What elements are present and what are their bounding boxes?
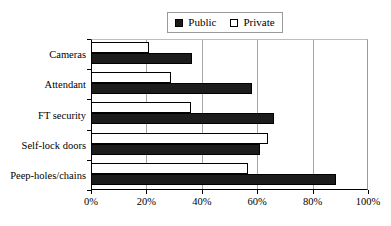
x-axis-label: 20% [137,196,156,207]
bar-group [91,160,368,190]
legend-entry-private: Private [230,17,274,28]
y-axis-tick [87,160,91,161]
y-axis-label: Peep-holes/chains [0,169,86,180]
legend-swatch-private-icon [230,19,238,27]
legend-label-private: Private [243,17,274,28]
y-axis-tick [87,130,91,131]
chart-legend: Public Private [167,12,283,33]
legend-label-public: Public [188,17,216,28]
y-axis-label: Cameras [0,49,86,60]
x-axis-tick [91,190,92,194]
bar-group [91,39,368,69]
bar-group [91,130,368,160]
chart-plot-area [91,39,368,190]
bar-public [91,113,274,124]
x-axis-tick [202,190,203,194]
x-axis-label: 100% [356,196,381,207]
x-axis-tick [368,190,369,194]
y-axis-tick [87,99,91,100]
bar-public [91,144,260,155]
y-axis-tick [87,69,91,70]
bar-private [91,102,191,113]
bar-public [91,83,252,94]
x-axis-label: 60% [248,196,267,207]
bar-series-container [91,39,368,190]
y-axis-label: Attendant [0,79,86,90]
x-axis-label: 80% [303,196,322,207]
bar-group [91,69,368,99]
bar-group [91,99,368,129]
y-axis-label: Self-lock doors [0,139,86,150]
y-axis-tick [87,39,91,40]
x-axis-tick [313,190,314,194]
x-axis-label: 40% [192,196,211,207]
bar-private [91,72,171,83]
x-axis-labels: 0%20%40%60%80%100% [91,196,368,210]
legend-entry-public: Public [175,17,216,28]
bar-private [91,133,268,144]
bar-private [91,42,149,53]
y-axis-labels: CamerasAttendantFT securitySelf-lock doo… [0,39,86,190]
x-axis-tick [257,190,258,194]
bar-public [91,174,336,185]
x-axis-tick [146,190,147,194]
bar-private [91,163,248,174]
bar-public [91,53,192,64]
legend-swatch-public-icon [175,19,183,27]
x-axis-label: 0% [84,196,98,207]
y-axis-label: FT security [0,109,86,120]
